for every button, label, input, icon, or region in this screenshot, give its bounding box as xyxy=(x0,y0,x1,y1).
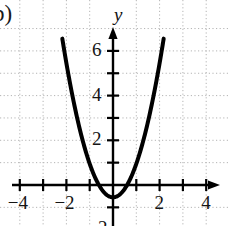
x-axis-arrow-icon xyxy=(208,180,220,189)
x-tick-label: 4 xyxy=(201,193,211,212)
x-tick-label: −4 xyxy=(8,193,28,212)
y-tick-label: 4 xyxy=(92,85,102,104)
y-tick-label: 2 xyxy=(92,129,102,148)
y-axis-label: y xyxy=(114,5,122,24)
partial-bottom-tick-label: 2 xyxy=(98,218,108,226)
coordinate-plane xyxy=(0,0,228,226)
x-tick-label: −2 xyxy=(54,193,74,212)
figure-panel: b) y −4−2242462 xyxy=(0,0,228,226)
x-tick-label: 2 xyxy=(155,193,165,212)
y-tick-label: 6 xyxy=(92,40,102,59)
